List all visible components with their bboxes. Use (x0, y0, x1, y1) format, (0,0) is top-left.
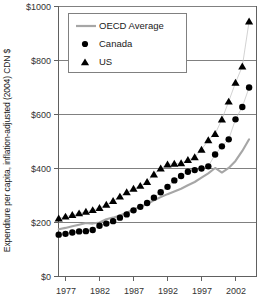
data-point-us (102, 201, 110, 208)
x-tick-label-1977: 1977 (56, 286, 76, 296)
legend-swatch-canada-circle-icon (82, 41, 88, 47)
data-point-canada (151, 194, 157, 200)
y-tick-label-600: $600 (31, 110, 51, 120)
data-point-canada (164, 184, 170, 190)
data-point-canada (246, 84, 252, 90)
x-tick-label-1982: 1982 (90, 286, 110, 296)
data-point-canada (56, 231, 62, 237)
data-point-us (218, 115, 226, 122)
y-tick-label-200: $200 (31, 218, 51, 228)
y-tick-label-0: $0 (41, 272, 51, 282)
chart-legend: OECD Average Canada US (69, 14, 187, 73)
data-point-us (89, 206, 97, 213)
y-tick-label-400: $400 (31, 164, 51, 174)
data-point-us (116, 193, 124, 200)
data-point-canada (171, 177, 177, 183)
data-point-canada (76, 228, 82, 234)
data-point-canada (205, 163, 211, 169)
chart-plot: $1000 $800 $600 $400 $200 $0 1977 1982 1… (0, 0, 268, 301)
x-tick-label-1987: 1987 (124, 286, 144, 296)
data-point-us (109, 197, 117, 204)
data-point-us (136, 182, 144, 189)
legend-label-oecd: OECD Average (99, 20, 164, 31)
data-point-us (55, 215, 63, 222)
data-point-canada (96, 223, 102, 229)
data-point-canada (62, 231, 68, 237)
data-point-canada (69, 229, 75, 235)
data-point-canada (83, 228, 89, 234)
data-point-us (211, 130, 219, 137)
y-tick-labels: $1000 $800 $600 $400 $200 $0 (26, 2, 51, 282)
x-tick-label-1997: 1997 (192, 286, 212, 296)
data-point-us (231, 79, 239, 86)
x-tick-label-2002: 2002 (226, 286, 246, 296)
series-line-oecd-average (59, 139, 249, 229)
data-point-canada (198, 165, 204, 171)
data-point-canada (158, 189, 164, 195)
data-point-canada (144, 200, 150, 206)
data-point-canada (178, 173, 184, 179)
data-point-us (184, 156, 192, 163)
data-point-canada (90, 227, 96, 233)
data-point-canada (219, 143, 225, 149)
y-tick-label-1000: $1000 (26, 2, 51, 12)
data-point-us (129, 185, 137, 192)
data-point-canada (130, 207, 136, 213)
data-point-canada (192, 167, 198, 173)
data-point-canada (185, 169, 191, 175)
data-point-us (238, 63, 246, 70)
data-point-us (123, 188, 131, 195)
chart-container: Expenditure per capita, inflation-adjust… (0, 0, 268, 301)
legend-label-us: US (99, 56, 112, 67)
data-point-canada (103, 220, 109, 226)
data-point-us (245, 17, 253, 24)
x-tick-labels: 1977 1982 1987 1992 1997 2002 (56, 286, 246, 296)
y-tick-label-800: $800 (31, 56, 51, 66)
data-point-canada (239, 104, 245, 110)
data-point-canada (117, 214, 123, 220)
data-point-canada (212, 151, 218, 157)
data-point-canada (232, 116, 238, 122)
data-point-us (197, 146, 205, 153)
data-point-canada (226, 136, 232, 142)
data-point-canada (137, 204, 143, 210)
legend-label-canada: Canada (99, 38, 133, 49)
data-point-canada (110, 218, 116, 224)
data-point-us (225, 98, 233, 105)
data-point-canada (124, 211, 130, 217)
x-tick-label-1992: 1992 (158, 286, 178, 296)
